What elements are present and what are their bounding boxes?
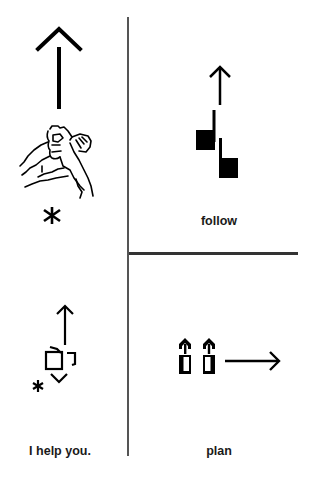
right-arrow-icon bbox=[225, 352, 279, 370]
sign-chart: follow I help you. bbox=[0, 0, 316, 482]
sign-label-plan: plan bbox=[180, 444, 258, 458]
hand-shape-icon bbox=[179, 338, 191, 374]
panel-bottom-right bbox=[0, 0, 316, 482]
hand-shape-icon bbox=[203, 338, 215, 374]
